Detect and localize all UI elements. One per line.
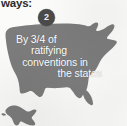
step-number-badge: 2: [38, 9, 55, 26]
caption-line-4: the states: [8, 68, 104, 79]
infographic-panel: ways: 2 By 3/4 of ratifying conventions …: [0, 0, 127, 126]
map-caption: By 3/4 of ratifying conventions in the s…: [8, 34, 104, 80]
heading-text-fragment: ways:: [1, 0, 32, 10]
step-number-label: 2: [38, 9, 55, 26]
